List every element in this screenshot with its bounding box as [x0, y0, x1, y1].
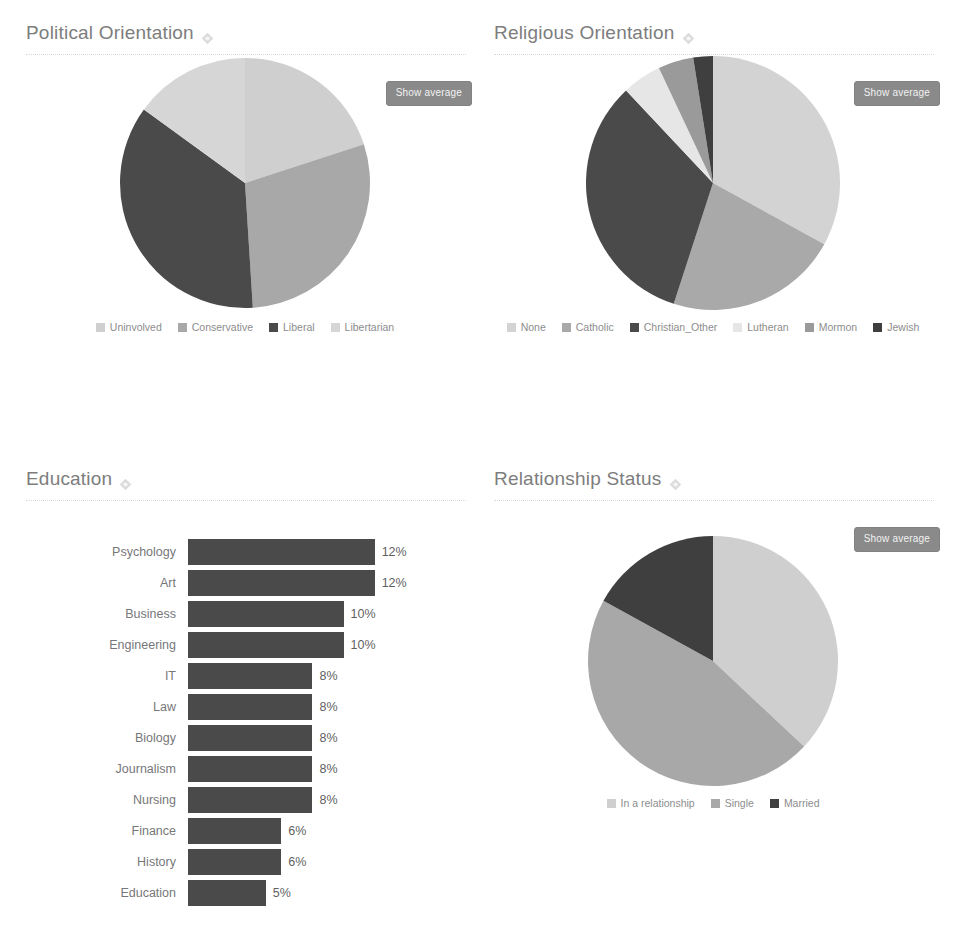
legend-label: Libertarian	[345, 321, 395, 333]
bar-fill[interactable]	[188, 849, 281, 875]
bar-row[interactable]: Psychology12%	[14, 537, 476, 566]
legend-swatch	[630, 323, 639, 332]
legend-item[interactable]: Christian_Other	[630, 321, 718, 333]
bar-category-label: Engineering	[14, 638, 188, 652]
legend-swatch	[733, 323, 742, 332]
legend-item[interactable]: Jewish	[873, 321, 919, 333]
bar-fill[interactable]	[188, 725, 312, 751]
legend-label: In a relationship	[621, 797, 695, 809]
panel-body-political: Show average UninvolvedConservativeLiber…	[14, 55, 476, 333]
legend-label: None	[521, 321, 546, 333]
bar-fill[interactable]	[188, 694, 312, 720]
bar-chart-education: Psychology12%Art12%Business10%Engineerin…	[14, 501, 476, 907]
bar-track: 6%	[188, 816, 476, 845]
bar-value-label: 6%	[288, 855, 306, 869]
legend-swatch	[96, 323, 105, 332]
bar-fill[interactable]	[188, 787, 312, 813]
pie-chart-political	[14, 55, 476, 311]
bar-row[interactable]: Engineering10%	[14, 630, 476, 659]
bar-category-label: Nursing	[14, 793, 188, 807]
bar-value-label: 6%	[288, 824, 306, 838]
bar-row[interactable]: Art12%	[14, 568, 476, 597]
info-icon[interactable]	[119, 474, 132, 487]
bar-category-label: Biology	[14, 731, 188, 745]
bar-category-label: Finance	[14, 824, 188, 838]
info-icon[interactable]	[201, 28, 214, 41]
bar-value-label: 10%	[351, 607, 376, 621]
bar-row[interactable]: Nursing8%	[14, 785, 476, 814]
bar-fill[interactable]	[188, 818, 281, 844]
panel-title-relationship: Relationship Status	[482, 462, 944, 500]
legend-label: Catholic	[576, 321, 614, 333]
bar-fill[interactable]	[188, 880, 266, 906]
legend-swatch	[711, 799, 720, 808]
legend-swatch	[269, 323, 278, 332]
legend-label: Conservative	[192, 321, 253, 333]
pie-relationship-svg[interactable]	[587, 535, 839, 787]
pie-chart-religious	[482, 55, 944, 311]
panel-title-education: Education	[14, 462, 476, 500]
panel-body-religious: Show average NoneCatholicChristian_Other…	[482, 55, 944, 333]
bar-track: 8%	[188, 754, 476, 783]
info-icon[interactable]	[682, 28, 695, 41]
pie-political-svg[interactable]	[119, 55, 371, 311]
legend-item[interactable]: In a relationship	[607, 797, 695, 809]
legend-label: Mormon	[819, 321, 858, 333]
bar-fill[interactable]	[188, 663, 312, 689]
legend-label: Uninvolved	[110, 321, 162, 333]
insights-dashboard: Political Orientation Show average Uninv…	[0, 0, 956, 949]
legend-item[interactable]: Liberal	[269, 321, 315, 333]
bar-value-label: 10%	[351, 638, 376, 652]
bar-row[interactable]: Business10%	[14, 599, 476, 628]
pie-chart-relationship	[482, 535, 944, 787]
legend-swatch	[331, 323, 340, 332]
bar-row[interactable]: Journalism8%	[14, 754, 476, 783]
bar-track: 8%	[188, 723, 476, 752]
legend-swatch	[770, 799, 779, 808]
bar-track: 8%	[188, 661, 476, 690]
info-icon[interactable]	[669, 474, 682, 487]
bar-fill[interactable]	[188, 632, 344, 658]
legend-item[interactable]: Catholic	[562, 321, 614, 333]
bar-value-label: 8%	[319, 731, 337, 745]
bar-fill[interactable]	[188, 539, 375, 565]
legend-item[interactable]: Conservative	[178, 321, 253, 333]
legend-item[interactable]: Libertarian	[331, 321, 395, 333]
legend-label: Liberal	[283, 321, 315, 333]
bar-row[interactable]: IT8%	[14, 661, 476, 690]
panel-religious-orientation: Religious Orientation Show average NoneC…	[482, 16, 944, 456]
bar-fill[interactable]	[188, 601, 344, 627]
bar-row[interactable]: Education5%	[14, 878, 476, 907]
bar-row[interactable]: Law8%	[14, 692, 476, 721]
legend-swatch	[873, 323, 882, 332]
legend-item[interactable]: None	[507, 321, 546, 333]
legend-swatch	[562, 323, 571, 332]
legend-label: Married	[784, 797, 820, 809]
legend-label: Christian_Other	[644, 321, 718, 333]
legend-item[interactable]: Married	[770, 797, 820, 809]
panel-title-political: Political Orientation	[14, 16, 476, 54]
legend-label: Jewish	[887, 321, 919, 333]
bar-fill[interactable]	[188, 570, 375, 596]
bar-value-label: 8%	[319, 700, 337, 714]
panel-title-text: Political Orientation	[26, 22, 194, 44]
pie-religious-svg[interactable]	[582, 55, 844, 311]
bar-row[interactable]: Biology8%	[14, 723, 476, 752]
bar-category-label: History	[14, 855, 188, 869]
bar-track: 6%	[188, 847, 476, 876]
bar-fill[interactable]	[188, 756, 312, 782]
bar-category-label: Business	[14, 607, 188, 621]
bar-track: 5%	[188, 878, 476, 907]
bar-row[interactable]: Finance6%	[14, 816, 476, 845]
panel-political-orientation: Political Orientation Show average Uninv…	[14, 16, 476, 456]
bar-value-label: 12%	[382, 576, 407, 590]
bar-value-label: 8%	[319, 762, 337, 776]
legend-item[interactable]: Uninvolved	[96, 321, 162, 333]
bar-row[interactable]: History6%	[14, 847, 476, 876]
legend-item[interactable]: Mormon	[805, 321, 858, 333]
bar-category-label: Journalism	[14, 762, 188, 776]
legend-religious: NoneCatholicChristian_OtherLutheranMormo…	[482, 321, 944, 333]
legend-item[interactable]: Lutheran	[733, 321, 788, 333]
legend-item[interactable]: Single	[711, 797, 754, 809]
legend-label: Lutheran	[747, 321, 788, 333]
